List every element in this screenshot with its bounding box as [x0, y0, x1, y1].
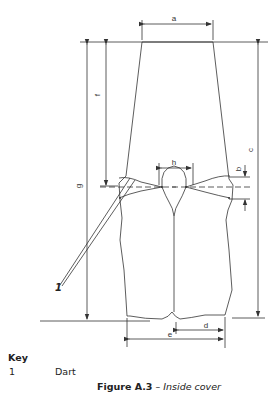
cover-outline [119, 42, 233, 319]
label-b: b [234, 166, 243, 171]
figure-caption: Figure A.3 – Inside cover [0, 381, 278, 392]
label-f: f [93, 93, 102, 96]
callout-leader-1 [60, 178, 130, 285]
label-c: c [246, 148, 255, 152]
label-g: g [74, 184, 83, 188]
key-item-number: 1 [9, 366, 15, 377]
figure-number: Figure A.3 [97, 381, 153, 392]
inside-cover-diagram: a h f g c b d e 1 [0, 0, 278, 350]
central-pocket [162, 166, 187, 216]
figure-title: Inside cover [163, 381, 221, 392]
label-h: h [172, 158, 176, 167]
label-d: d [204, 321, 208, 330]
key-item-label: Dart [55, 366, 76, 377]
dart-left [119, 178, 162, 199]
caption-separator: – [152, 381, 163, 392]
label-e: e [168, 330, 173, 339]
key-title: Key [8, 352, 28, 363]
label-a: a [172, 14, 177, 23]
callout-label-1: 1 [55, 282, 62, 293]
